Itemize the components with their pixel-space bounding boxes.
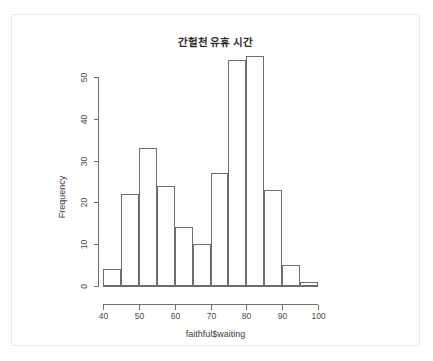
histogram-bar	[211, 174, 228, 286]
y-axis-tick-label: 30	[79, 157, 89, 167]
screenshot-root: 간헐천 유휴 시간 01020304050 405060708090100 fa…	[0, 0, 433, 361]
histogram-bar	[139, 149, 156, 286]
histogram-bar	[104, 270, 121, 286]
y-axis: 01020304050	[79, 73, 99, 289]
x-axis-tick-label: 90	[278, 311, 288, 321]
x-axis: 405060708090100	[99, 305, 326, 321]
histogram-bar	[175, 228, 192, 286]
y-axis-label: Frequency	[57, 175, 67, 218]
histogram-bar	[229, 61, 246, 286]
x-axis-tick-label: 70	[207, 311, 217, 321]
histogram-bar	[283, 266, 300, 286]
y-axis-tick-label: 10	[79, 240, 89, 250]
x-axis-tick-label: 50	[135, 311, 145, 321]
histogram-bar	[265, 190, 282, 285]
x-axis-tick-label: 60	[171, 311, 181, 321]
y-axis-tick-label: 0	[79, 284, 89, 289]
x-axis-tick-label: 100	[311, 311, 325, 321]
x-axis-tick-label: 80	[242, 311, 252, 321]
chart-title: 간헐천 유휴 시간	[178, 36, 254, 48]
y-axis-tick-label: 40	[79, 115, 89, 125]
plot-card: 간헐천 유휴 시간 01020304050 405060708090100 fa…	[11, 14, 420, 346]
bars-group	[103, 57, 318, 287]
histogram-plot: 간헐천 유휴 시간 01020304050 405060708090100 fa…	[12, 15, 419, 345]
y-axis-tick-label: 20	[79, 198, 89, 208]
histogram-bar	[247, 57, 264, 286]
histogram-bar	[157, 186, 174, 285]
x-axis-label: faithful$waiting	[186, 329, 246, 339]
y-axis-tick-label: 50	[79, 73, 89, 83]
histogram-bar	[301, 282, 318, 285]
x-axis-tick-label: 40	[99, 311, 109, 321]
histogram-bar	[193, 245, 210, 286]
histogram-bar	[121, 195, 138, 286]
